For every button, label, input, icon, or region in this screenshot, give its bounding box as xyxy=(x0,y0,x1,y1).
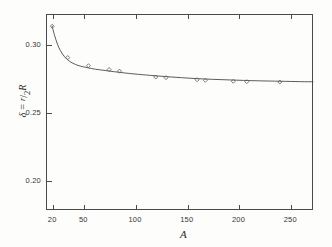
y-axis-label: δ=r/2R xyxy=(17,66,29,136)
figure-canvas: 2050100150200250 0.200.250.30 A δ=r/2R xyxy=(0,0,332,247)
data-point xyxy=(86,64,90,68)
x-axis-label-text: A xyxy=(180,228,187,240)
x-tick-label: 50 xyxy=(79,215,88,224)
x-tick-label: 250 xyxy=(284,215,297,224)
y-tick-label: 0.20 xyxy=(19,176,41,185)
y-axis-fraction: r/2 xyxy=(18,91,29,101)
chart-plot-area xyxy=(0,0,332,247)
data-point xyxy=(278,80,282,84)
x-tick-label: 200 xyxy=(232,215,245,224)
x-tick-label: 150 xyxy=(180,215,193,224)
y-axis-numerator: r xyxy=(17,98,27,101)
x-tick-label: 20 xyxy=(48,215,57,224)
y-axis-equals-sign: = xyxy=(17,104,28,110)
data-point-markers xyxy=(50,24,282,84)
x-axis-label: A xyxy=(180,228,187,240)
y-axis-delta-symbol: δ xyxy=(17,113,28,118)
y-tick-label: 0.30 xyxy=(19,39,41,48)
data-curve xyxy=(52,26,313,82)
x-tick-label: 100 xyxy=(128,215,141,224)
y-axis-denominator: 2 xyxy=(22,91,32,95)
